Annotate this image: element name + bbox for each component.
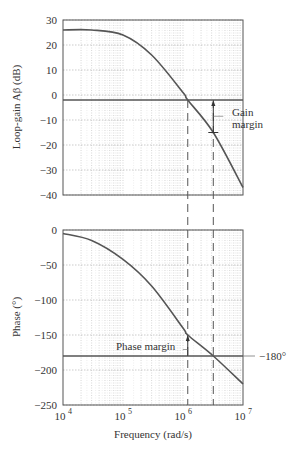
y-tick-label: −100 (34, 294, 57, 306)
plot-frame (63, 20, 243, 195)
loop-gain-curve (63, 30, 243, 188)
y-tick-label: 0 (52, 224, 58, 236)
x-tick-exponent: 7 (248, 407, 252, 416)
minus-180-label: −180° (259, 350, 286, 362)
y-tick-label: −150 (34, 329, 57, 341)
x-axis-label: Frequency (rad/s) (114, 428, 192, 441)
y-tick-label: −40 (40, 189, 58, 201)
x-tick-label: 10 (235, 410, 247, 422)
x-tick-exponent: 4 (68, 407, 72, 416)
x-tick-label: 10 (55, 410, 67, 422)
top-y-axis-label: Loop-gain Aβ (dB) (10, 64, 23, 149)
phase-margin-label: Phase margin (116, 340, 176, 352)
x-tick-label: 10 (115, 410, 127, 422)
y-tick-label: −50 (40, 259, 58, 271)
y-tick-label: −30 (40, 164, 58, 176)
plot-frame (63, 230, 243, 405)
y-tick-label: 10 (46, 64, 58, 76)
gain-margin-label: margin (232, 118, 263, 130)
x-tick-exponent: 5 (128, 407, 132, 416)
y-tick-label: 20 (46, 39, 58, 51)
bode-plot: 3020100−10−20−30−400−50−100−150−200−250−… (0, 0, 297, 452)
phase-curve (63, 234, 243, 385)
y-tick-label: −200 (34, 364, 57, 376)
x-tick-label: 10 (175, 410, 187, 422)
bottom-y-axis-label: Phase (°) (10, 297, 23, 337)
gain-margin-label: Gain (232, 106, 254, 118)
y-tick-label: 0 (52, 89, 58, 101)
x-tick-exponent: 6 (188, 407, 192, 416)
y-tick-label: 30 (46, 14, 58, 26)
y-tick-label: −20 (40, 139, 58, 151)
y-tick-label: −10 (40, 114, 58, 126)
